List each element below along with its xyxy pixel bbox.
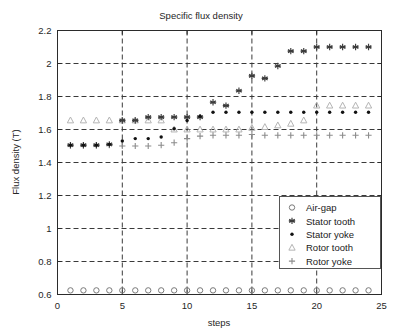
data-point-dot	[224, 110, 227, 113]
y-tick-label: 2.2	[38, 25, 51, 36]
legend: Air-gapStator toothStator yokeRotor toot…	[280, 197, 381, 269]
data-point-dot	[302, 110, 305, 113]
y-tick-label: 0.6	[38, 289, 51, 300]
data-point-dot	[354, 110, 357, 113]
data-point-dot	[147, 137, 150, 140]
legend-label: Rotor tooth	[306, 242, 353, 253]
data-point-dot	[315, 110, 318, 113]
x-tick-label: 15	[247, 300, 258, 311]
legend-marker-dot	[290, 233, 293, 236]
data-point-dot	[108, 143, 111, 146]
data-point-dot	[134, 137, 137, 140]
data-point-dot	[185, 119, 188, 122]
chart-background	[0, 0, 403, 336]
data-point-dot	[289, 110, 292, 113]
legend-label: Stator yoke	[306, 229, 354, 240]
y-tick-label: 1.8	[38, 91, 51, 102]
x-tick-label: 10	[182, 300, 193, 311]
chart-figure: Specific flux density 0510152025 0.60.81…	[0, 0, 403, 336]
data-point-dot	[211, 110, 214, 113]
legend-label: Rotor yoke	[306, 256, 352, 267]
y-tick-label: 0.8	[38, 256, 51, 267]
data-point-dot	[69, 143, 72, 146]
data-point-dot	[95, 143, 98, 146]
data-point-dot	[159, 135, 162, 138]
specific-flux-density-chart: Specific flux density 0510152025 0.60.81…	[0, 0, 403, 336]
data-point-dot	[367, 110, 370, 113]
x-axis-label: steps	[208, 317, 231, 328]
data-point-dot	[250, 110, 253, 113]
data-point-dot	[263, 110, 266, 113]
x-tick-label: 20	[311, 300, 322, 311]
legend-label: Stator tooth	[306, 216, 355, 227]
data-point-dot	[276, 110, 279, 113]
y-tick-label: 2	[46, 58, 51, 69]
x-tick-label: 0	[55, 300, 60, 311]
x-tick-label: 25	[376, 300, 387, 311]
y-tick-label: 1	[46, 223, 51, 234]
data-point-dot	[341, 110, 344, 113]
data-point-dot	[237, 110, 240, 113]
chart-title: Specific flux density	[159, 10, 243, 21]
data-point-dot	[82, 143, 85, 146]
x-tick-label: 5	[120, 300, 125, 311]
y-tick-label: 1.2	[38, 190, 51, 201]
y-tick-label: 1.4	[38, 157, 51, 168]
data-point-dot	[121, 139, 124, 142]
y-tick-label: 1.6	[38, 124, 51, 135]
legend-label: Air-gap	[306, 202, 337, 213]
data-point-dot	[198, 115, 201, 118]
data-point-dot	[172, 127, 175, 130]
data-point-dot	[328, 110, 331, 113]
y-axis-label: Flux density (T)	[10, 129, 21, 194]
